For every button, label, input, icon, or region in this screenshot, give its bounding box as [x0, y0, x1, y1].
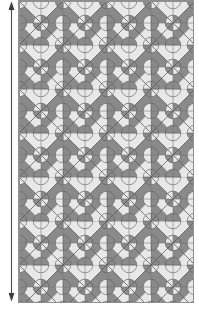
tiling-pattern	[19, 1, 194, 303]
figure-root	[0, 0, 199, 311]
arrow-head-top-icon	[8, 2, 14, 11]
arrow-head-bottom-icon	[8, 293, 14, 302]
pattern-fill-area	[19, 1, 194, 303]
pattern-swatch	[18, 0, 194, 303]
